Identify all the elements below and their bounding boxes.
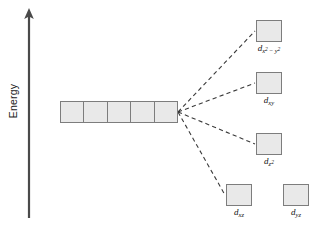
- orbital-box-dxy: [256, 72, 282, 94]
- orbital-box-dx2-y2: [256, 20, 282, 42]
- connector-line-dxz: [178, 112, 225, 195]
- orbital-label-dxy-sub: xy: [268, 99, 274, 106]
- orbital-label-dz2-sup: 2: [271, 159, 274, 165]
- orbital-level-dxz: dxz: [226, 184, 252, 206]
- orbital-level-dz2: dz2: [256, 133, 282, 155]
- orbital-level-dyz: dyz: [283, 184, 309, 206]
- degenerate-orbital-box-2: [83, 101, 106, 123]
- orbital-label-dxy: dxy: [264, 96, 274, 106]
- orbital-level-dxy: dxy: [256, 72, 282, 94]
- orbital-label-dx2-y2-sup2: 2: [278, 46, 281, 52]
- degenerate-orbital-box-4: [130, 101, 153, 123]
- connector-line-dx2-y2: [178, 31, 255, 112]
- orbital-label-dxz: dxz: [234, 208, 244, 218]
- orbital-label-dx2-y2: dx2 − y2: [258, 44, 281, 54]
- orbital-level-dx2-y2: dx2 − y2: [256, 20, 282, 42]
- connector-line-dxy: [178, 83, 255, 112]
- connector-line-dz2: [178, 112, 255, 144]
- degenerate-orbital-box-3: [107, 101, 130, 123]
- degenerate-d-orbital-set: [60, 101, 178, 123]
- orbital-box-dz2: [256, 133, 282, 155]
- degenerate-orbital-box-1: [60, 101, 83, 123]
- crystal-field-splitting-diagram: Energy dx2 − y2 dxy dz2 dxz: [0, 0, 323, 235]
- degenerate-orbital-box-5: [154, 101, 178, 123]
- orbital-label-dxz-sub: xz: [239, 211, 244, 218]
- orbital-label-dz2: dz2: [264, 157, 274, 167]
- orbital-box-dyz: [283, 184, 309, 206]
- orbital-label-dyz-sub: yz: [296, 211, 301, 218]
- orbital-box-dxz: [226, 184, 252, 206]
- orbital-label-dyz: dyz: [291, 208, 301, 218]
